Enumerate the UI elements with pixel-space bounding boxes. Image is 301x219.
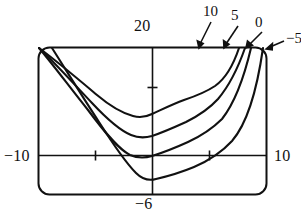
curve-label-5: 5 (231, 8, 239, 23)
callout-arrow-5 (224, 26, 238, 48)
curve-label-10: 10 (203, 4, 218, 19)
figure-container (0, 0, 301, 219)
curve-label-0: 0 (255, 15, 263, 30)
axis-label-left: −10 (4, 148, 30, 164)
plot-svg (0, 0, 301, 219)
axis-label-right: 10 (274, 148, 290, 164)
axis-label-bottom: −6 (135, 196, 152, 212)
callout-arrow-0 (246, 32, 262, 48)
axis-label-top: 20 (134, 18, 150, 34)
callout-arrow-minus5 (266, 41, 284, 50)
callout-arrow-10 (197, 22, 211, 48)
curve-label-minus5: −5 (286, 31, 301, 46)
